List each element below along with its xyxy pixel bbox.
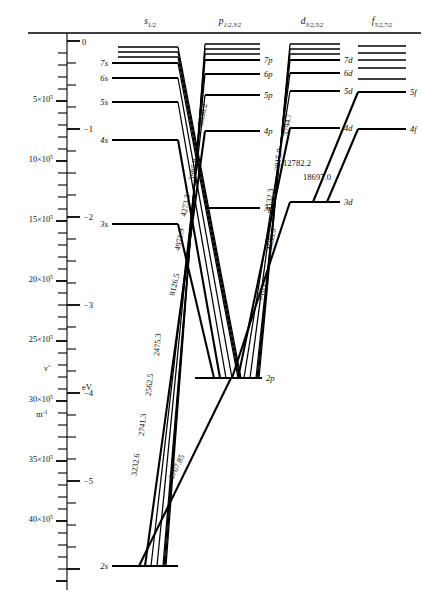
level-label-6s: 6s: [100, 73, 108, 83]
level-label-5d: 5d: [344, 86, 353, 96]
level-label-6p: 6p: [264, 69, 273, 79]
ev-unit-label: eV: [82, 382, 93, 392]
level-label-7d: 7d: [344, 55, 353, 65]
level-label-6d: 6d: [344, 68, 353, 78]
zero-label: 0: [82, 37, 86, 47]
left-tick-label: 10×105: [29, 154, 53, 164]
level-label-7s: 7s: [100, 58, 108, 68]
level-label-7p: 7p: [264, 55, 273, 65]
level-label-4s: 4s: [100, 135, 108, 145]
level-label-3s: 3s: [99, 219, 108, 229]
level-label-5s: 5s: [100, 97, 108, 107]
right-tick-label: −1: [84, 124, 93, 134]
left-tick-label: 20×105: [29, 274, 53, 284]
left-tick-label: 15×105: [29, 214, 53, 224]
left-tick-label: 35×105: [29, 454, 53, 464]
grotrian-diagram: s1/2p1/2,3/2d3/2,5/2f5/2,7/2 5×10510×105…: [0, 0, 423, 593]
level-label-5p: 5p: [264, 90, 273, 100]
left-tick-label: 40×105: [29, 514, 53, 524]
level-label-2p: 2p: [266, 373, 275, 383]
right-tick-label: −2: [84, 212, 93, 222]
wavelength-label: 12782.2: [283, 158, 311, 168]
right-tick-label: −5: [84, 476, 93, 486]
left-tick-label: 25×105: [29, 334, 53, 344]
level-label-2s: 2s: [100, 561, 108, 571]
left-tick-label: 30×105: [29, 394, 53, 404]
level-label-4d: 4d: [344, 123, 353, 133]
level-label-4p: 4p: [264, 126, 273, 136]
left-tick-label: 5×105: [33, 94, 53, 104]
level-label-3d: 3d: [343, 197, 353, 207]
right-tick-label: −3: [84, 300, 93, 310]
wavelength-label: 18697.0: [303, 172, 331, 182]
